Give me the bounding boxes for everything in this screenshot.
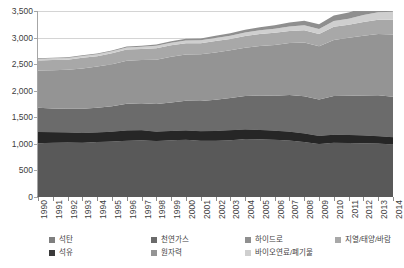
- x-axis-tick-label: 1994: [99, 200, 108, 219]
- x-axis-tick-label: 2007: [291, 200, 300, 219]
- legend-swatch-icon: [151, 237, 157, 243]
- x-axis-tick-label: 2004: [247, 200, 256, 219]
- legend-label: 석탄: [59, 236, 73, 244]
- x-axis-tick-label: 1992: [70, 200, 79, 219]
- y-axis-tick-label: 3,000: [0, 34, 33, 43]
- x-axis-tick-label: 1998: [158, 200, 167, 219]
- x-axis-tick-label: 2012: [365, 200, 374, 219]
- x-axis-tick-label: 2002: [218, 200, 227, 219]
- x-axis-tick-label: 1999: [173, 200, 182, 219]
- legend-item[interactable]: 천연가스: [151, 236, 189, 244]
- legend-label: 천연가스: [161, 236, 189, 244]
- legend-label: 바이오연료/폐기물: [255, 249, 313, 257]
- x-axis-tick-label: 1993: [84, 200, 93, 219]
- x-axis-tick-label: 2000: [188, 200, 197, 219]
- y-axis-tick-label: 500: [0, 166, 33, 175]
- area-band-0: [38, 139, 393, 197]
- y-axis-tick-label: 3,500: [0, 7, 33, 16]
- legend-item[interactable]: 바이오연료/폐기물: [245, 249, 313, 257]
- legend-item[interactable]: 석유: [49, 249, 73, 257]
- x-axis-tick-label: 1990: [40, 200, 49, 219]
- x-axis-tick-label: 2001: [203, 200, 212, 219]
- legend-label: 하이드로: [255, 236, 283, 244]
- x-axis-tick-label: 2008: [306, 200, 315, 219]
- y-axis-tick-label: 1,500: [0, 113, 33, 122]
- x-axis-tick-label: 2010: [336, 200, 345, 219]
- x-axis-tick-label: 2011: [351, 200, 360, 218]
- x-axis-tick-label: 1991: [55, 200, 64, 219]
- legend-label: 지열/태양/바람: [345, 236, 391, 244]
- y-axis-tick-label: 0: [0, 193, 33, 202]
- x-axis-tick-label: 2003: [232, 200, 241, 219]
- x-axis-tick-label: 2006: [277, 200, 286, 219]
- legend-swatch-icon: [49, 250, 55, 256]
- legend-swatch-icon: [49, 237, 55, 243]
- y-axis-tick-label: 1,000: [0, 140, 33, 149]
- legend-swatch-icon: [245, 250, 251, 256]
- x-axis-tick-label: 2013: [380, 200, 389, 219]
- legend-item[interactable]: 석탄: [49, 236, 73, 244]
- x-axis-tick-label: 1996: [129, 200, 138, 219]
- y-axis-tick-label: 2,000: [0, 87, 33, 96]
- x-axis-tick-label: 1995: [114, 200, 123, 219]
- legend-item[interactable]: 원자력: [151, 249, 182, 257]
- y-axis-tick-label: 2,500: [0, 60, 33, 69]
- area-series-layers: [38, 11, 393, 197]
- x-axis-tick-label: 2009: [321, 200, 330, 219]
- legend-item[interactable]: 하이드로: [245, 236, 283, 244]
- legend-swatch-icon: [245, 237, 251, 243]
- legend-label: 원자력: [161, 249, 182, 257]
- plot-area: [37, 11, 392, 197]
- legend-swatch-icon: [151, 250, 157, 256]
- legend-item[interactable]: 지열/태양/바람: [335, 236, 391, 244]
- legend-label: 석유: [59, 249, 73, 257]
- x-axis-tick-label: 1997: [144, 200, 153, 219]
- chart-legend: 석탄석유천연가스원자력하이드로바이오연료/폐기물지열/태양/바람: [37, 236, 392, 264]
- x-axis-labels: 1990199119921993199419951996199719981999…: [37, 200, 392, 240]
- x-axis-tick-label: 2005: [262, 200, 271, 219]
- legend-swatch-icon: [335, 237, 341, 243]
- x-axis-tick-label: 2014: [395, 200, 404, 219]
